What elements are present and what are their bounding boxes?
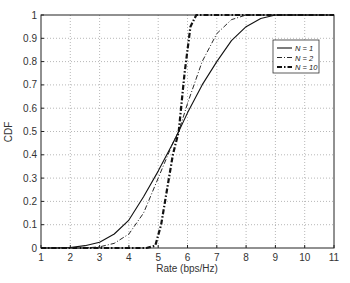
x-tick-label: 11	[329, 252, 340, 263]
x-tick-label: 10	[299, 252, 311, 263]
x-tick-label: 2	[68, 252, 74, 263]
x-tick-label: 6	[185, 252, 191, 263]
y-tick-label: 0.4	[23, 149, 37, 160]
x-tick-label: 4	[126, 252, 132, 263]
y-tick-label: 0.7	[23, 79, 37, 90]
y-tick-label: 0	[31, 243, 37, 254]
x-tick-label: 3	[97, 252, 103, 263]
y-tick-label: 0.5	[23, 126, 37, 137]
y-axis-label: CDF	[3, 122, 14, 143]
y-tick-label: 0.8	[23, 56, 37, 67]
legend: N = 1N = 2N = 10	[273, 40, 319, 73]
cdf-chart: 123456789101100.10.20.30.40.50.60.70.80.…	[0, 0, 350, 283]
x-tick-label: 9	[273, 252, 279, 263]
y-tick-label: 1	[31, 10, 37, 21]
legend-label: N = 2	[295, 54, 314, 63]
y-tick-label: 0.1	[23, 219, 37, 230]
y-tick-label: 0.9	[23, 33, 37, 44]
legend-label: N = 1	[295, 44, 313, 53]
y-tick-label: 0.6	[23, 103, 37, 114]
y-tick-label: 0.3	[23, 173, 37, 184]
x-tick-label: 5	[155, 252, 161, 263]
x-tick-label: 1	[38, 252, 44, 263]
legend-label: N = 10	[295, 63, 318, 72]
y-tick-label: 0.2	[23, 196, 37, 207]
x-tick-label: 7	[214, 252, 220, 263]
x-tick-label: 8	[243, 252, 249, 263]
x-axis-label: Rate (bps/Hz)	[156, 263, 218, 274]
